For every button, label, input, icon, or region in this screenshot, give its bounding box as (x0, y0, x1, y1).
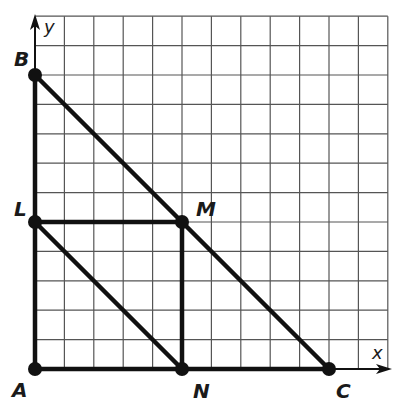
point-b (28, 68, 42, 82)
segment-ln (35, 222, 182, 369)
label-l: L (14, 197, 27, 221)
point-m (175, 215, 189, 229)
label-c: C (336, 379, 351, 403)
x-axis-label: x (371, 342, 383, 363)
point-c (322, 362, 336, 376)
coordinate-grid (35, 16, 388, 369)
point-l (28, 215, 42, 229)
geometry-diagram: y x B L M A N C (0, 0, 401, 408)
point-n (175, 362, 189, 376)
point-a (28, 362, 42, 376)
y-axis-label: y (43, 16, 55, 37)
label-b: B (14, 47, 29, 71)
label-n: N (193, 379, 210, 403)
label-a: A (10, 378, 27, 402)
label-m: M (196, 197, 216, 221)
